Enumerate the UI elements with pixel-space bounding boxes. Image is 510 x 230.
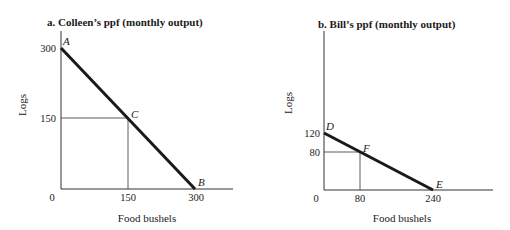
point-a-label: A: [62, 35, 70, 47]
panel-a-y-tick-300: 300: [40, 43, 56, 54]
panel-b-title: b. Bill’s ppf (monthly output): [318, 18, 456, 31]
panel-b-x-tick-240: 240: [425, 193, 441, 204]
panel-b-ppf-line: [324, 133, 433, 190]
panel-b-y-tick-80: 80: [310, 147, 321, 158]
point-b-label: B: [198, 176, 205, 188]
panel-b-bill: b. Bill’s ppf (monthly output) D F E 120…: [282, 18, 493, 224]
panel-b-origin: 0: [313, 193, 318, 204]
panel-a-y-label: Logs: [16, 94, 28, 116]
panel-b-y-label: Logs: [282, 92, 294, 114]
panel-b-x-label: Food bushels: [373, 212, 431, 224]
ppf-figure: a. Colleen’s ppf (monthly output) A C B …: [0, 0, 510, 230]
panel-a-x-label: Food bushels: [118, 212, 176, 224]
panel-a-x-tick-150: 150: [120, 192, 136, 203]
panel-a-title: a. Colleen’s ppf (monthly output): [47, 16, 203, 29]
point-f-label: F: [362, 142, 370, 154]
panel-b-y-tick-120: 120: [304, 128, 320, 139]
panel-a-x-tick-300: 300: [188, 192, 204, 203]
panel-a-origin: 0: [49, 192, 54, 203]
panel-b-x-tick-80: 80: [355, 193, 366, 204]
panel-a-y-tick-150: 150: [40, 113, 56, 124]
panel-a-colleen: a. Colleen’s ppf (monthly output) A C B …: [16, 16, 233, 224]
point-c-label: C: [131, 108, 139, 120]
point-e-label: E: [435, 178, 443, 190]
point-d-label: D: [325, 120, 334, 132]
